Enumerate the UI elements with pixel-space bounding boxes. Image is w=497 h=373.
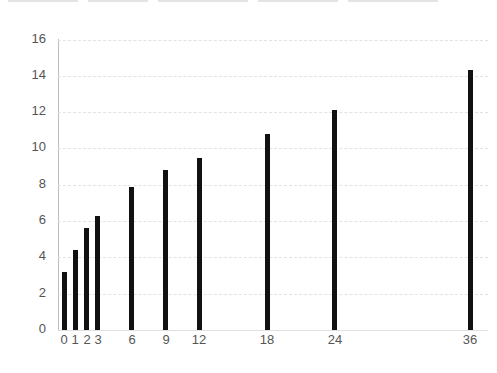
- x-tick-label: 12: [184, 332, 214, 347]
- bar: [129, 187, 134, 330]
- gridline: [58, 185, 488, 186]
- gridline: [58, 257, 488, 258]
- y-tick-label: 12: [0, 104, 46, 118]
- bar: [62, 272, 67, 330]
- bar: [197, 158, 202, 330]
- y-tick-label: 16: [0, 32, 46, 46]
- bar: [332, 110, 337, 330]
- x-tick-label: 36: [455, 332, 485, 347]
- y-tick-label: 10: [0, 140, 46, 154]
- x-tick-label: 6: [117, 332, 147, 347]
- bar-chart: 024681012141601236912182436: [0, 0, 497, 373]
- x-tick-label: 18: [252, 332, 282, 347]
- x-axis-baseline: [58, 330, 488, 331]
- x-tick-label: 24: [320, 332, 350, 347]
- gridline: [58, 294, 488, 295]
- bar: [468, 70, 473, 330]
- y-tick-label: 2: [0, 286, 46, 300]
- x-tick-label: 9: [151, 332, 181, 347]
- y-tick-label: 0: [0, 322, 46, 336]
- bar: [95, 216, 100, 330]
- gridline: [58, 76, 488, 77]
- y-tick-label: 4: [0, 249, 46, 263]
- gridline: [58, 112, 488, 113]
- y-tick-label: 8: [0, 177, 46, 191]
- gridline: [58, 221, 488, 222]
- bar: [163, 170, 168, 330]
- y-tick-label: 6: [0, 213, 46, 227]
- bar: [265, 134, 270, 330]
- gridline: [58, 40, 488, 41]
- bar: [84, 228, 89, 330]
- bar: [73, 250, 78, 330]
- gridline: [58, 148, 488, 149]
- x-tick-label: 3: [83, 332, 113, 347]
- y-tick-label: 14: [0, 68, 46, 82]
